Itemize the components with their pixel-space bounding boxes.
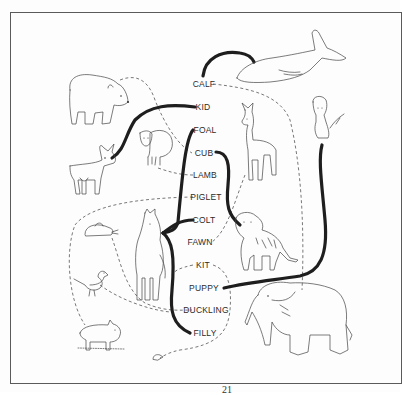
goat-drawing [70, 144, 115, 194]
label-cub: CUB [195, 148, 214, 158]
tiger-drawing [235, 212, 298, 270]
mouse-drawing [153, 355, 163, 360]
label-puppy: PUPPY [189, 283, 219, 293]
label-fawn: FAWN [187, 237, 212, 247]
label-filly: FILLY [193, 328, 216, 338]
elephant-drawing [245, 282, 352, 355]
bear-drawing [70, 75, 129, 124]
label-calf: CALF [193, 79, 216, 89]
label-duckling: DUCKLING [183, 305, 229, 315]
rabbit-drawing [85, 223, 118, 236]
duck-drawing [74, 271, 108, 296]
horse-drawing [136, 209, 166, 300]
page-number: 21 [222, 384, 232, 395]
label-lamb: LAMB [193, 170, 217, 180]
label-foal: FOAL [193, 125, 216, 135]
label-kid: KID [196, 102, 211, 112]
dog-drawing [313, 96, 344, 138]
label-piglet: PIGLET [190, 192, 221, 202]
label-colt: COLT [193, 215, 216, 225]
deer-drawing [242, 103, 276, 180]
dashed-connectors [69, 78, 303, 358]
sheep-drawing [140, 130, 172, 165]
whale-drawing [237, 30, 346, 82]
label-kit: KIT [196, 260, 210, 270]
